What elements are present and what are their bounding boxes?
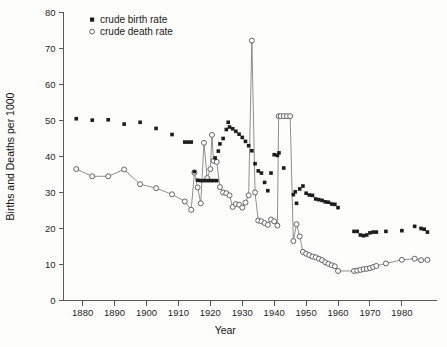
- birth-rate-point: [336, 206, 340, 210]
- x-axis-title: Year: [215, 324, 237, 336]
- death-rate-point: [106, 174, 111, 179]
- birth-rate-point: [304, 191, 308, 195]
- birth-rate-point: [272, 153, 276, 157]
- birth-rate-point: [228, 125, 232, 129]
- birth-rate-point: [375, 230, 379, 234]
- birth-rate-point: [212, 179, 216, 183]
- birth-rate-point: [231, 127, 235, 131]
- death-rate-point: [336, 268, 341, 273]
- birth-rate-point: [202, 179, 206, 183]
- death-rate-point: [209, 132, 214, 137]
- death-rate-point: [240, 205, 245, 210]
- birth-rate-point: [234, 130, 238, 134]
- birth-rate-point: [240, 136, 244, 140]
- birth-rate-point: [260, 171, 264, 175]
- death-rate-point: [275, 223, 280, 228]
- birth-rate-point: [384, 230, 388, 234]
- birth-rate-point: [263, 181, 267, 185]
- death-rate-point: [198, 201, 203, 206]
- death-rate-point: [217, 185, 222, 190]
- birth-rate-point: [199, 179, 203, 183]
- death-rate-point: [249, 38, 254, 43]
- death-rate-point: [74, 167, 79, 172]
- birth-rate-point: [426, 230, 430, 234]
- birth-rate-point: [193, 170, 197, 174]
- y-tick-label: 30: [45, 187, 56, 198]
- y-tick-label: 70: [45, 43, 56, 54]
- chart-container: 01020304050607080 1880189019001910192019…: [0, 0, 447, 347]
- birth-rate-point: [250, 149, 254, 153]
- birth-rate-point: [308, 193, 312, 197]
- death-rate-line: [76, 41, 427, 271]
- birth-rate-point: [269, 171, 273, 175]
- birth-rate-point: [293, 190, 297, 194]
- birth-rate-point: [122, 122, 126, 126]
- birth-rate-point: [282, 166, 286, 170]
- death-rate-point: [138, 182, 143, 187]
- x-axis-ticks: 1880189019001910192019301940195019601970…: [72, 301, 412, 319]
- birth-rate-point: [314, 197, 318, 201]
- death-rate-point: [294, 222, 299, 227]
- birth-rate-point: [400, 229, 404, 233]
- death-rate-points: [74, 38, 430, 273]
- x-tick-label: 1880: [72, 307, 93, 318]
- death-rate-point: [297, 234, 302, 239]
- x-tick-label: 1950: [296, 307, 317, 318]
- death-rate-point: [182, 199, 187, 204]
- death-rate-point: [189, 207, 194, 212]
- y-tick-label: 0: [50, 295, 55, 306]
- death-rate-point: [195, 185, 200, 190]
- birth-rate-point: [237, 132, 241, 136]
- death-rate-point: [374, 263, 379, 268]
- birth-rate-point: [352, 230, 356, 234]
- birth-rate-points: [74, 117, 429, 238]
- y-tick-label: 60: [45, 79, 56, 90]
- death-rate-point: [272, 219, 277, 224]
- y-tick-label: 80: [45, 7, 56, 18]
- birth-rate-point: [205, 179, 209, 183]
- birth-rate-point: [330, 202, 334, 206]
- death-rate-point: [214, 159, 219, 164]
- birth-rate-point: [170, 133, 174, 137]
- death-rate-point: [265, 222, 270, 227]
- birth-rate-point: [371, 230, 375, 234]
- birth-rate-point: [311, 194, 315, 198]
- death-rate-point: [90, 174, 95, 179]
- legend-marker-filled-square: [90, 18, 94, 22]
- birth-rate-point: [298, 187, 302, 191]
- birth-rate-point: [244, 140, 248, 144]
- birth-rate-point: [301, 184, 305, 188]
- birth-rate-point: [196, 178, 200, 182]
- axis-group: [64, 13, 438, 301]
- birth-rate-point: [74, 117, 78, 121]
- x-tick-label: 1910: [168, 307, 189, 318]
- y-axis-ticks: 01020304050607080: [45, 7, 64, 306]
- x-tick-label: 1920: [200, 307, 221, 318]
- birth-rate-point: [320, 199, 324, 203]
- x-tick-label: 1980: [391, 307, 412, 318]
- birth-rate-point: [362, 234, 366, 238]
- birth-rate-point: [138, 121, 142, 125]
- death-rate-point: [419, 258, 424, 263]
- death-rate-point: [412, 256, 417, 261]
- y-axis-title: Births and Deaths per 1000: [4, 92, 16, 220]
- x-tick-label: 1940: [264, 307, 285, 318]
- death-rate-point: [246, 193, 251, 198]
- birth-rate-point: [422, 227, 426, 231]
- x-tick-label: 1930: [232, 307, 253, 318]
- birth-rate-point: [266, 189, 270, 193]
- birth-rate-point: [209, 179, 213, 183]
- birth-rate-point: [413, 225, 417, 229]
- birth-rate-point: [225, 128, 229, 132]
- birth-rate-point: [295, 202, 299, 206]
- birth-rate-point: [359, 233, 363, 237]
- death-rate-point: [154, 186, 159, 191]
- x-tick-label: 1890: [104, 307, 125, 318]
- x-tick-label: 1970: [359, 307, 380, 318]
- death-rate-point: [201, 140, 206, 145]
- death-rate-point: [399, 257, 404, 262]
- y-tick-label: 40: [45, 151, 56, 162]
- birth-rate-point: [154, 127, 158, 131]
- legend-label: crude birth rate: [100, 14, 168, 25]
- birth-rate-point: [256, 169, 260, 173]
